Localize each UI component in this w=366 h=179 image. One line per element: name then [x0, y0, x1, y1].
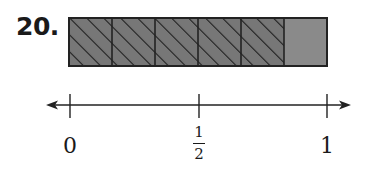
label-one-half: 1 2 — [192, 124, 206, 163]
fraction-numerator: 1 — [192, 124, 206, 141]
unshaded-part — [284, 18, 327, 66]
fraction-denominator: 2 — [192, 146, 206, 163]
fraction-bar — [69, 18, 327, 66]
label-1: 1 — [320, 133, 334, 158]
number-line — [46, 94, 351, 118]
figure — [0, 0, 366, 179]
label-0: 0 — [63, 133, 77, 158]
shaded-region — [69, 18, 284, 66]
fraction-bar-line — [193, 143, 205, 144]
